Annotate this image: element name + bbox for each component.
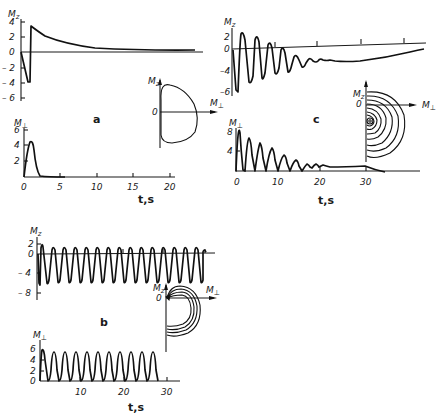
svg-text:20: 20 [118, 387, 130, 397]
panel-c-label: c [313, 113, 320, 126]
svg-text:M⊥: M⊥ [422, 100, 436, 112]
svg-text:6: 6 [14, 125, 20, 135]
svg-text:0: 0 [234, 177, 240, 187]
panel-a-mz-plot: Mz 4 2 0 – 2 – 4 – 6 [2, 9, 203, 103]
panel-a: Mz 4 2 0 – 2 – 4 – 6 a Mz M⊥ 0 [2, 9, 224, 206]
panel-c-phase-portrait: Mz 0 M⊥ [353, 80, 436, 162]
svg-text:20: 20 [164, 182, 176, 192]
svg-text:30: 30 [161, 387, 173, 397]
panel-b-mperp-plot: M⊥ 6 4 2 0 10 20 30 t,s [30, 330, 180, 414]
panel-a-label: a [93, 113, 100, 126]
svg-text:4: 4 [227, 146, 233, 156]
svg-text:0: 0 [152, 107, 158, 117]
svg-text:2: 2 [28, 239, 34, 249]
svg-text:8: 8 [227, 127, 233, 137]
panel-b-label: b [100, 316, 108, 329]
svg-text:2: 2 [30, 366, 36, 376]
svg-text:10: 10 [75, 387, 87, 397]
arrow-right-icon [210, 110, 218, 114]
svg-text:– 4: – 4 [2, 78, 15, 88]
figure: Mz 4 2 0 – 2 – 4 – 6 a Mz M⊥ 0 [0, 0, 445, 415]
svg-text:0: 0 [30, 376, 36, 386]
svg-text:20: 20 [314, 177, 326, 187]
panel-b: Mz 2 0 – 4 – 8 b Mz 0 M⊥ [18, 226, 220, 414]
panel-b-mz-plot: Mz 2 0 – 4 – 8 [18, 226, 215, 300]
arrow-up-icon [364, 80, 368, 87]
svg-text:M⊥: M⊥ [206, 285, 220, 297]
panel-a-phase-portrait: Mz M⊥ 0 [148, 76, 224, 148]
svg-text:6: 6 [30, 344, 36, 354]
svg-text:15: 15 [127, 182, 139, 192]
svg-text:0: 0 [28, 249, 34, 259]
svg-text:0: 0 [156, 293, 162, 303]
svg-text:4: 4 [30, 355, 36, 365]
svg-text:4: 4 [14, 140, 20, 150]
svg-text:–4: –4 [220, 66, 231, 76]
panel-b-mperp-curve [40, 350, 158, 381]
panel-a-time-label: t,s [138, 193, 154, 206]
arrow-up-icon [164, 283, 168, 290]
svg-text:0: 0 [356, 99, 362, 109]
svg-text:Mz: Mz [30, 226, 42, 238]
svg-text:Mz: Mz [148, 76, 160, 88]
panel-c-mz-plot: Mz 2 0 –4 –6 [220, 17, 426, 97]
svg-text:– 2: – 2 [2, 63, 15, 73]
panel-c: Mz 2 0 –4 –6 c Mz 0 M⊥ [220, 17, 436, 207]
svg-text:0: 0 [21, 182, 27, 192]
arrow-right-icon [409, 103, 417, 107]
svg-text:2: 2 [14, 156, 20, 166]
svg-text:Mz: Mz [224, 17, 236, 29]
svg-text:0: 0 [9, 47, 15, 57]
svg-text:0: 0 [224, 44, 230, 54]
svg-text:4: 4 [9, 17, 15, 27]
panel-b-phase-portrait: Mz 0 M⊥ [153, 283, 220, 352]
svg-text:2: 2 [9, 32, 15, 42]
svg-text:30: 30 [360, 177, 372, 187]
panel-a-mperp-plot: M⊥ 6 4 2 0 5 10 15 20 t,s [14, 118, 176, 206]
svg-text:M⊥: M⊥ [210, 98, 224, 110]
panel-c-spiral [367, 92, 405, 158]
svg-text:5: 5 [57, 182, 63, 192]
panel-b-limit-cycle [166, 286, 200, 336]
svg-text:– 6: – 6 [2, 93, 15, 103]
svg-text:10: 10 [91, 182, 103, 192]
panel-c-time-label: t,s [318, 194, 334, 207]
svg-text:–6: –6 [220, 87, 231, 97]
panel-c-mz-curve [233, 33, 424, 92]
svg-text:2: 2 [224, 32, 230, 42]
svg-text:– 8: – 8 [18, 288, 31, 298]
panel-a-mz-curve [21, 26, 195, 82]
panel-c-mperp-curve [236, 130, 385, 172]
panel-b-time-label: t,s [128, 401, 144, 414]
panel-b-mz-curve [38, 245, 206, 285]
svg-text:– 4: – 4 [18, 268, 31, 278]
svg-text:10: 10 [272, 177, 284, 187]
